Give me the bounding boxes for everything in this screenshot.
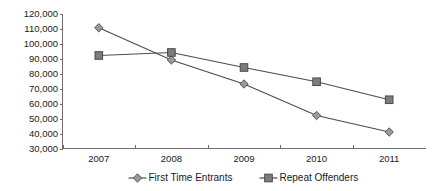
data-point-marker — [167, 56, 175, 64]
x-tick-label: 2009 — [233, 153, 254, 164]
data-point-marker — [385, 96, 393, 104]
y-tick-label: 90,000 — [29, 53, 58, 64]
chart-canvas: 120,000110,000100,00090,00080,00070,0006… — [0, 0, 433, 191]
legend-label: First Time Entrants — [149, 172, 233, 183]
x-tick-label: 2008 — [161, 153, 182, 164]
line-chart: 120,000110,000100,00090,00080,00070,0006… — [0, 0, 433, 191]
x-axis-tick-labels: 20072008200920102011 — [88, 153, 399, 164]
legend-marker-diamond — [133, 174, 141, 182]
data-point-marker — [312, 111, 320, 119]
y-tick-label: 50,000 — [29, 113, 58, 124]
series-line-square — [99, 53, 389, 100]
data-point-marker — [240, 64, 248, 72]
data-point-marker — [385, 128, 393, 136]
chart-legend: First Time EntrantsRepeat Offenders — [129, 172, 359, 183]
y-tick-label: 80,000 — [29, 68, 58, 79]
data-point-marker — [313, 78, 321, 86]
x-tick-label: 2010 — [306, 153, 327, 164]
x-tick-label: 2011 — [379, 153, 399, 164]
y-tick-label: 70,000 — [29, 83, 58, 94]
x-axis-tick-marks — [63, 145, 353, 149]
y-tick-label: 30,000 — [29, 143, 58, 154]
series-markers — [95, 24, 394, 137]
x-tick-label: 2007 — [88, 153, 109, 164]
y-tick-label: 110,000 — [24, 23, 58, 34]
data-point-marker — [95, 24, 103, 32]
y-tick-label: 120,000 — [24, 8, 58, 19]
y-tick-label: 100,000 — [24, 38, 58, 49]
legend-label: Repeat Offenders — [280, 172, 359, 183]
y-axis-tick-labels: 120,000110,000100,00090,00080,00070,0006… — [24, 8, 58, 154]
data-point-marker — [168, 49, 176, 57]
data-point-marker — [95, 52, 103, 60]
y-tick-label: 40,000 — [29, 128, 58, 139]
data-point-marker — [240, 80, 248, 88]
y-tick-label: 60,000 — [29, 98, 58, 109]
legend-marker-square — [265, 174, 273, 182]
